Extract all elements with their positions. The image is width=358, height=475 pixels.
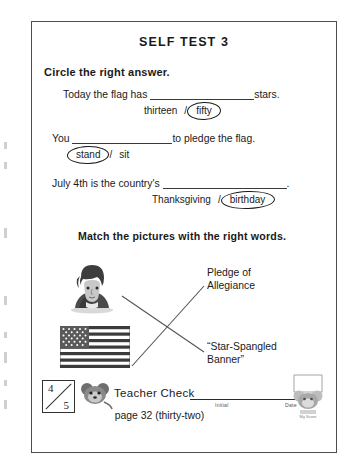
match-word-banner[interactable]: “Star-Spangled Banner”	[207, 340, 277, 366]
question-3-text-before: July 4th is the country's	[52, 178, 160, 189]
score-numerator: 4	[48, 382, 54, 394]
question-3-choices: Thanksgiving/birthday	[152, 194, 267, 205]
question-1-option-a[interactable]: thirteen	[144, 105, 177, 116]
portrait-illustration	[64, 258, 120, 314]
question-1-option-b[interactable]: fifty	[194, 105, 214, 116]
question-3: July 4th is the country's . Thanksgiving…	[52, 177, 289, 189]
question-3-text-after: .	[287, 178, 290, 189]
question-1-text-before: Today the flag has	[63, 89, 147, 100]
question-3-blank[interactable]	[163, 177, 287, 189]
score-box: 4 5	[42, 380, 75, 413]
question-2-text-before: You	[52, 133, 70, 144]
question-2-blank[interactable]	[72, 132, 172, 144]
question-3-option-a[interactable]: Thanksgiving	[152, 194, 211, 205]
match-word-pledge[interactable]: Pledge of Allegiance	[207, 266, 255, 292]
teacher-check-label: Teacher Check	[114, 387, 195, 399]
my-score-stamp-icon: My Score	[290, 374, 326, 420]
question-2-text-after: to pledge the flag.	[172, 133, 255, 144]
question-2-option-b[interactable]: sit	[119, 149, 129, 160]
worksheet-page: SELF TEST 3 Circle the right answer. Tod…	[31, 21, 337, 453]
question-1-choices: thirteen/fifty	[144, 105, 214, 116]
footer: 4 5 Teacher Check Initial Date page 32 (…	[32, 372, 336, 452]
question-3-option-b[interactable]: birthday	[228, 194, 268, 205]
section-heading-match: Match the pictures with the right words.	[78, 230, 286, 242]
question-2-option-a[interactable]: stand	[74, 149, 102, 160]
question-1: Today the flag has stars. thirteen/fifty	[63, 88, 280, 100]
question-1-text-after: stars.	[254, 89, 279, 100]
initial-label: Initial	[215, 402, 229, 408]
scan-artifacts	[0, 100, 14, 420]
flag-illustration	[60, 326, 130, 368]
svg-text:My Score: My Score	[300, 414, 318, 419]
section-heading-circle: Circle the right answer.	[44, 66, 170, 78]
page-number: page 32 (thirty-two)	[32, 410, 287, 421]
page-title: SELF TEST 3	[32, 35, 336, 49]
question-2-choices: stand/sit	[74, 149, 129, 160]
question-1-blank[interactable]	[150, 88, 254, 100]
question-2: You to pledge the flag. stand/sit	[52, 132, 255, 144]
mouse-mascot-icon	[78, 380, 113, 410]
